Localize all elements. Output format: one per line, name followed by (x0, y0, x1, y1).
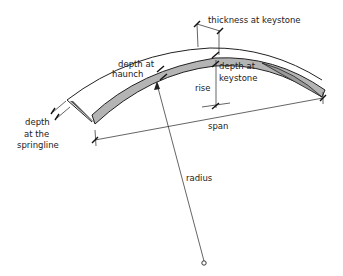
tick-icon (212, 103, 219, 109)
label-rise: rise (195, 83, 211, 93)
tick-icon (217, 28, 223, 34)
thickness-dim-line (197, 24, 220, 31)
label-depth-at-haunch-2: haunch (112, 69, 143, 79)
springline-ext-2 (57, 107, 70, 118)
center-point-icon (202, 261, 206, 265)
span-line (95, 98, 323, 140)
arch-diagram: thickness at keystone depth at haunch de… (0, 0, 343, 276)
label-depth-at-haunch-1: depth at (118, 59, 155, 69)
springline-ext-1 (53, 101, 66, 112)
label-depth-springline-2: at the (24, 129, 49, 139)
arch-right-underside (262, 63, 322, 97)
label-depth-springline-3: springline (17, 140, 59, 150)
label-depth-at-keystone-1: depth at (219, 61, 256, 71)
label-span: span (208, 121, 228, 131)
span-ext-left (95, 130, 96, 146)
label-depth-springline-1: depth (25, 117, 50, 127)
tick-icon (212, 52, 219, 58)
tick-icon (92, 137, 98, 143)
label-depth-at-keystone-2: keystone (219, 73, 257, 83)
label-radius: radius (186, 173, 213, 183)
arch-left-end-shade (70, 101, 95, 123)
label-thickness-at-keystone: thickness at keystone (208, 15, 301, 25)
thickness-ext-left (197, 24, 198, 47)
arch-left-end-face (67, 100, 92, 122)
